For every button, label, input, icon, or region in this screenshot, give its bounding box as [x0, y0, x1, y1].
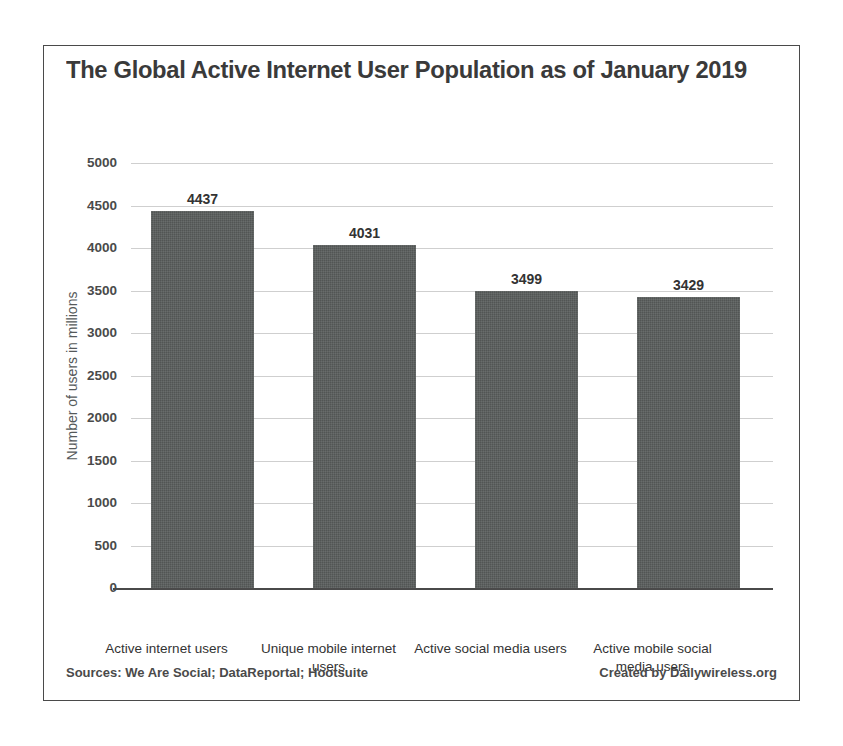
y-axis-tick-label: 4500 — [87, 198, 117, 213]
bar[interactable] — [313, 245, 416, 588]
bar[interactable] — [475, 291, 578, 588]
bar-group[interactable]: 4031 — [313, 163, 416, 588]
y-axis-title: Number of users in millions — [61, 163, 83, 588]
title-block: The Global Active Internet User Populati… — [44, 46, 799, 111]
bar-value-label: 4437 — [151, 191, 254, 207]
y-axis-tick-label: 1000 — [87, 495, 117, 510]
y-axis-tick-label: 2500 — [87, 368, 117, 383]
y-axis-tick-label: 1500 — [87, 453, 117, 468]
y-axis-tick-label: 3500 — [87, 283, 117, 298]
bar-group[interactable]: 3499 — [475, 163, 578, 588]
footer-credit: Created by Dailywireless.org — [599, 665, 777, 680]
y-axis-tick-label: 3000 — [87, 325, 117, 340]
bar-value-label: 3429 — [637, 277, 740, 293]
chart-title: The Global Active Internet User Populati… — [66, 56, 747, 84]
chart-figure: The Global Active Internet User Populati… — [43, 45, 800, 701]
bar-series: 4437403134993429 — [131, 163, 773, 588]
bar-group[interactable]: 4437 — [151, 163, 254, 588]
y-axis-title-label: Number of users in millions — [64, 291, 80, 460]
bar-value-label: 3499 — [475, 271, 578, 287]
bar[interactable] — [151, 211, 254, 588]
footer-sources: Sources: We Are Social; DataReportal; Ho… — [66, 665, 368, 680]
bar-group[interactable]: 3429 — [637, 163, 740, 588]
y-axis-tick-label: 500 — [94, 538, 117, 553]
y-axis-tick-label: 5000 — [87, 155, 117, 170]
x-axis-line — [113, 588, 773, 590]
bar-value-label: 4031 — [313, 225, 416, 241]
bar[interactable] — [637, 297, 740, 588]
plot-area: 5000450040003500300025002000150010005000… — [131, 118, 773, 660]
chart-footer: Sources: We Are Social; DataReportal; Ho… — [44, 656, 799, 700]
y-axis-tick-label: 2000 — [87, 410, 117, 425]
y-axis-tick-label: 4000 — [87, 240, 117, 255]
